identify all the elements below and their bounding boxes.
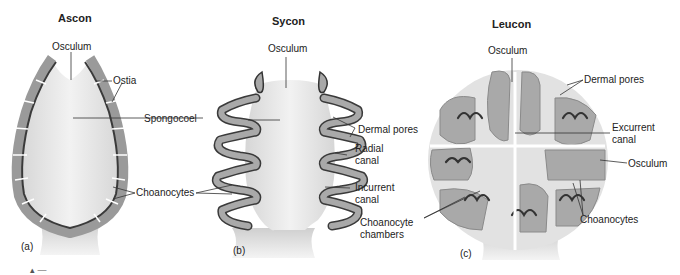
leucon-osculum-top-label: Osculum [488, 45, 527, 57]
leucon-title: Leucon [492, 18, 531, 30]
panel-letter-c: (c) [460, 248, 472, 259]
figure-footer-mark: ▴ — [30, 264, 47, 275]
sycon-body [216, 72, 363, 258]
leucon-dermal-pores-label: Dermal pores [584, 74, 644, 86]
radial-canal-label: Radial canal [355, 143, 395, 167]
panel-letter-a: (a) [21, 241, 33, 252]
ascon-body [13, 58, 127, 255]
ascon-osculum-label: Osculum [52, 41, 91, 53]
spongocoel-label: Spongocoel [144, 113, 197, 125]
sponge-diagram-artwork [0, 0, 680, 275]
leucon-choanocytes-label: Choanocytes [580, 214, 638, 226]
sycon-osculum-label: Osculum [268, 43, 307, 55]
leucon-osculum-side-label: Osculum [628, 158, 667, 170]
leucon-body [428, 70, 608, 260]
incurrent-canal-label: Incurrent canal [355, 182, 405, 206]
ascon-choanocytes-label: Choanocytes [136, 187, 194, 199]
panel-letter-b: (b) [233, 245, 245, 256]
excurrent-canal-label: Excurrent canal [612, 122, 672, 146]
ascon-title: Ascon [58, 12, 92, 24]
sycon-dermal-pores-label: Dermal pores [358, 124, 418, 136]
sycon-title: Sycon [272, 15, 305, 27]
ascon-ostia-label: Ostia [113, 75, 136, 87]
choanocyte-chambers-label: Choanocyte chambers [360, 217, 424, 241]
